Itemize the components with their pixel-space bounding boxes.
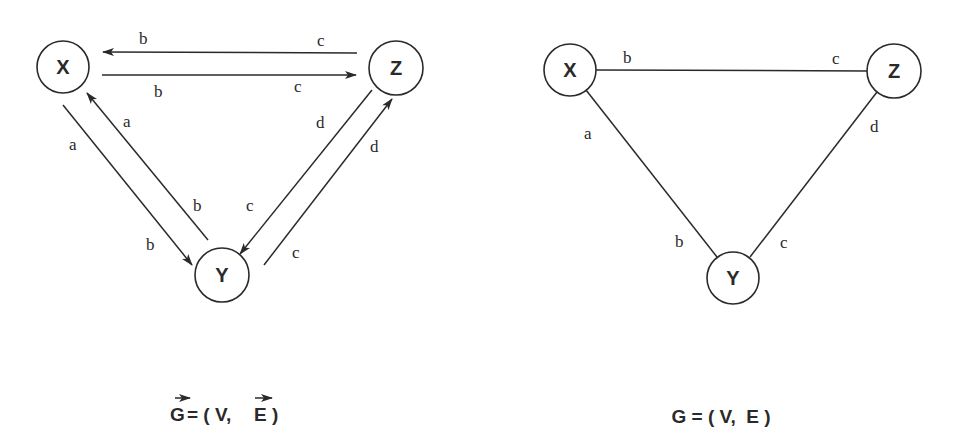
edge-x-z — [596, 70, 867, 71]
edge-label: b — [675, 232, 684, 251]
edge-label: c — [780, 233, 788, 252]
undirected-graph-caption: G = ( V, E ) — [671, 406, 770, 427]
edge-label: a — [584, 124, 592, 143]
edge-label: c — [246, 196, 254, 215]
node-label: Y — [215, 264, 229, 286]
edge-label: c — [832, 49, 840, 68]
edge-z-y — [750, 92, 877, 257]
edge-label: c — [317, 31, 325, 50]
directed-graph: b c b c a b a b d c d c X Z Y G = ( V, — [37, 29, 423, 425]
edge-label: c — [294, 77, 302, 96]
edge-label: c — [292, 243, 300, 262]
undirected-graph: b c a b d c X Z Y G = ( V, E ) — [544, 44, 921, 427]
edge-y-to-x — [87, 93, 208, 240]
node-y: Y — [707, 252, 759, 304]
caption-e: E — [254, 404, 267, 425]
edge-y-to-z — [264, 99, 392, 265]
caption-g: G — [170, 404, 185, 425]
caption-middle: = ( V, — [187, 404, 231, 425]
edge-x-y — [586, 90, 717, 257]
edge-label: b — [193, 196, 202, 215]
edge-label: a — [123, 112, 131, 131]
directed-graph-caption: G = ( V, E ) — [170, 398, 278, 425]
graph-diagram: b c b c a b a b d c d c X Z Y G = ( V, — [0, 0, 961, 442]
edge-z-to-y — [240, 90, 372, 254]
node-label: Z — [888, 60, 900, 82]
edge-label: a — [69, 135, 77, 154]
node-x: X — [544, 44, 596, 96]
edge-label: d — [870, 117, 879, 136]
node-z: Z — [369, 41, 423, 95]
node-label: X — [56, 56, 70, 78]
node-label: Z — [390, 57, 402, 79]
node-y: Y — [195, 248, 249, 302]
edge-z-to-x — [103, 52, 357, 53]
edge-label: b — [139, 29, 148, 48]
caption-close: ) — [272, 404, 278, 425]
edge-label: d — [316, 113, 325, 132]
node-label: Y — [726, 267, 740, 289]
edge-label: d — [370, 137, 379, 156]
node-label: X — [563, 59, 577, 81]
edge-label: b — [154, 82, 163, 101]
edge-label: b — [146, 235, 155, 254]
edge-label: b — [623, 48, 632, 67]
node-z: Z — [867, 44, 921, 98]
node-x: X — [37, 41, 89, 93]
